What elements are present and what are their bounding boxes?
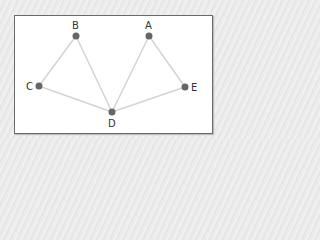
- node-b: [73, 33, 80, 40]
- label-e: E: [191, 83, 197, 93]
- nodes: [36, 33, 189, 116]
- edges: [39, 36, 185, 112]
- node-a: [146, 33, 153, 40]
- label-a: A: [145, 21, 152, 31]
- label-c: C: [26, 82, 33, 92]
- node-e: [182, 84, 189, 91]
- label-d: D: [108, 119, 116, 129]
- label-b: B: [72, 21, 79, 31]
- node-d: [109, 109, 116, 116]
- edge-b-c: [39, 36, 76, 86]
- edge-a-e: [149, 36, 185, 87]
- node-c: [36, 83, 43, 90]
